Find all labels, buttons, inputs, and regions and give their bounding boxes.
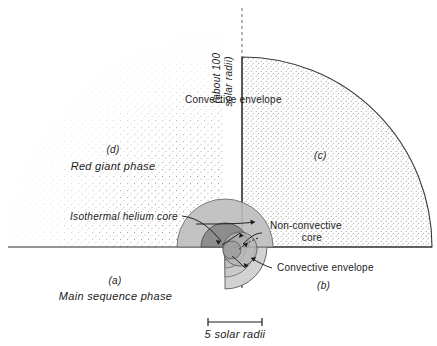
label-red-giant-phase: Red giant phase [63,160,163,173]
label-scale-bar: 5 solar radii [185,328,285,341]
label-quadrant-c: (c) [314,150,327,162]
label-convective-envelope-top: Convective envelope [185,94,282,106]
label-quadrant-a: (a) [95,275,135,287]
label-isothermal-helium-core: Isothermal helium core [70,211,178,223]
quadrant-c-region [242,57,432,247]
label-quadrant-d: (d) [93,144,133,156]
label-convective-envelope-bottom: Convective envelope [277,262,374,274]
label-non-convective-core-line2: core [270,232,354,244]
label-non-convective-core-line1: Non-convective [270,220,342,232]
label-quadrant-b: (b) [317,280,330,292]
scale-bar [208,318,262,326]
label-main-sequence-phase: Main sequence phase [52,290,179,303]
stellar-evolution-figure: (about 100 solar radii) Convective envel… [0,0,437,346]
